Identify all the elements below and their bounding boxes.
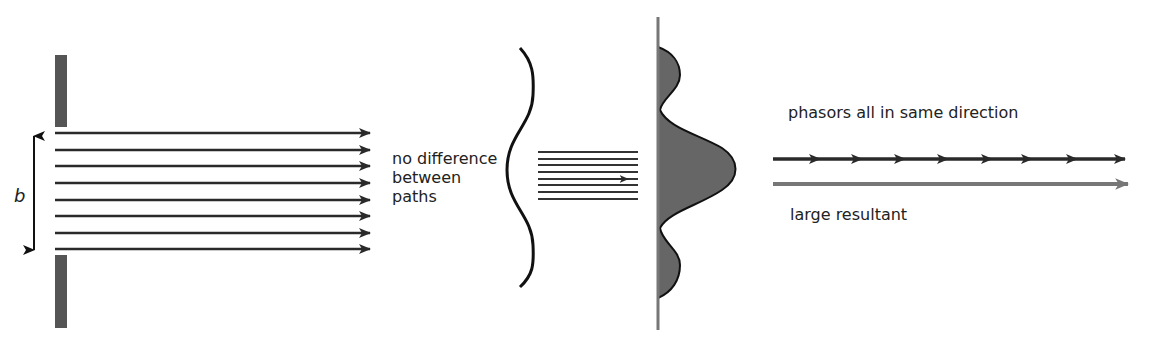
phasors-label: phasors all in same direction: [788, 103, 1018, 122]
barrier-top: [55, 55, 67, 127]
intensity-profile: [658, 47, 736, 298]
diffraction-diagram: [0, 0, 1150, 343]
slit-barrier: [55, 55, 67, 328]
slit-width-label: b: [14, 186, 25, 205]
barrier-bottom: [55, 255, 67, 328]
incident-rays: [55, 133, 370, 249]
parallel-paths: [538, 152, 638, 199]
resultant-label: large resultant: [790, 205, 907, 224]
curly-brace: [507, 48, 533, 287]
brace-label: no difference between paths: [392, 149, 497, 206]
